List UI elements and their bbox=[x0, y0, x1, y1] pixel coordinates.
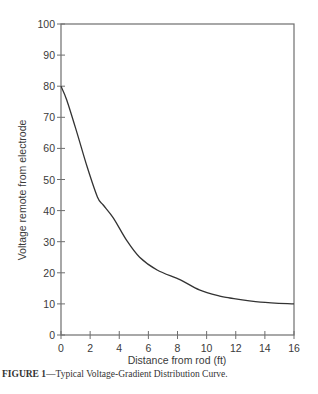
y-tick-label: 50 bbox=[43, 174, 55, 186]
figure-caption: FIGURE 1—Typical Voltage-Gradient Distri… bbox=[2, 369, 228, 379]
chart: 0102030405060708090100 0246810121416 Dis… bbox=[0, 0, 318, 394]
y-tick-label: 40 bbox=[43, 205, 55, 217]
x-tick-label: 6 bbox=[145, 342, 151, 354]
y-tick-label: 70 bbox=[43, 111, 55, 123]
y-tick-label: 80 bbox=[43, 80, 55, 92]
y-tick-label: 60 bbox=[43, 142, 55, 154]
x-tick-label: 8 bbox=[175, 342, 181, 354]
x-tick-label: 16 bbox=[288, 342, 300, 354]
x-axis-title: Distance from rod (ft) bbox=[128, 354, 227, 366]
y-tick-label: 100 bbox=[37, 18, 55, 30]
x-tick-label: 14 bbox=[259, 342, 271, 354]
x-tick-label: 2 bbox=[87, 342, 93, 354]
y-tick-label: 10 bbox=[43, 298, 55, 310]
plot-border bbox=[61, 24, 294, 335]
plot-frame bbox=[61, 24, 294, 335]
y-tick-label: 30 bbox=[43, 236, 55, 248]
x-tick-label: 0 bbox=[58, 342, 64, 354]
y-tick-label: 20 bbox=[43, 267, 55, 279]
chart-canvas: 0102030405060708090100 0246810121416 Dis… bbox=[0, 0, 318, 394]
x-tick-label: 12 bbox=[230, 342, 242, 354]
y-axis-title: Voltage remote from electrode bbox=[16, 120, 28, 261]
figure-caption-label: FIGURE 1 bbox=[2, 369, 46, 379]
x-tick-label: 4 bbox=[116, 342, 122, 354]
x-tick-label: 10 bbox=[201, 342, 213, 354]
y-tick-label: 90 bbox=[43, 49, 55, 61]
voltage-curve bbox=[61, 86, 294, 304]
y-tick-label: 0 bbox=[49, 329, 55, 341]
figure-caption-text: —Typical Voltage-Gradient Distribution C… bbox=[46, 369, 228, 379]
